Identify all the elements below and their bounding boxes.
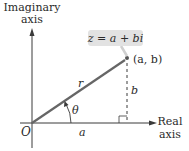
equation-label: z = a + bi bbox=[87, 32, 143, 45]
imaginary-axis-arrowhead-icon bbox=[30, 28, 35, 36]
real-axis-arrowhead-icon bbox=[149, 121, 157, 126]
real-axis bbox=[20, 121, 157, 126]
theta-arc bbox=[66, 104, 71, 123]
complex-plane-diagram: z = a + bi (a, b) Imaginary axis Real ax… bbox=[0, 0, 189, 151]
right-angle-marker bbox=[119, 116, 127, 123]
real-axis-label-line1: Real bbox=[158, 115, 183, 128]
origin-label: O bbox=[21, 125, 31, 139]
theta-label: θ bbox=[72, 104, 79, 117]
point-label: (a, b) bbox=[133, 53, 162, 66]
point-a-b-dot bbox=[125, 56, 129, 60]
vertical-leg-label: b bbox=[131, 84, 138, 97]
theta-arrowhead-icon bbox=[64, 101, 69, 107]
imaginary-axis-label-line2: axis bbox=[21, 13, 43, 26]
radius-label: r bbox=[78, 77, 84, 90]
real-axis-label-line2: axis bbox=[159, 128, 181, 141]
horizontal-leg-label: a bbox=[79, 126, 86, 139]
label-connector bbox=[121, 46, 127, 56]
